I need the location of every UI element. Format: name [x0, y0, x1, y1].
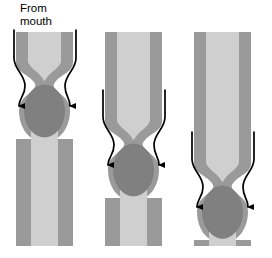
stage-3-tube-lumen — [206, 32, 239, 182]
stage-3-lower-esophagus — [192, 32, 254, 246]
stage-1-tube-lumen-lower — [31, 126, 58, 246]
stage-1-bolus — [25, 85, 65, 137]
diagram-canvas — [0, 0, 272, 258]
peristalsis-diagram: From mouth — [0, 0, 272, 258]
stage-2-bolus — [114, 144, 154, 196]
stage-3-bolus — [203, 186, 243, 238]
stage-1-upper-esophagus — [14, 30, 76, 246]
from-mouth-label: From mouth — [20, 2, 100, 28]
stage-2-tube-lumen — [117, 32, 150, 140]
stage-2-mid-esophagus — [103, 32, 165, 246]
